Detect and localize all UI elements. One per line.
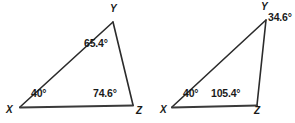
angle-label-x-right: 40°: [183, 88, 198, 99]
vertex-label-z-left: Z: [136, 106, 142, 116]
segment-xz-right: [172, 106, 257, 108]
vertex-label-y-left: Y: [110, 4, 117, 14]
geometry-figure: 8. X Y Z 40° 65.4° 74.6° X Y Z 40° 34.6°…: [0, 0, 295, 123]
vertex-label-y-right: Y: [261, 2, 268, 12]
angle-label-z-left: 74.6°: [93, 88, 117, 99]
segment-xz-left: [20, 106, 133, 108]
vertex-label-x-left: X: [6, 105, 13, 115]
vertex-label-x-right: X: [160, 105, 167, 115]
segment-yz-right: [257, 20, 266, 105]
angle-label-x-left: 40°: [31, 88, 46, 99]
triangles-svg: [0, 0, 295, 123]
angle-label-z-right: 105.4°: [211, 88, 240, 99]
vertex-label-z-right: Z: [254, 106, 260, 116]
angle-label-y-left: 65.4°: [84, 38, 108, 49]
angle-label-y-right: 34.6°: [268, 12, 292, 23]
